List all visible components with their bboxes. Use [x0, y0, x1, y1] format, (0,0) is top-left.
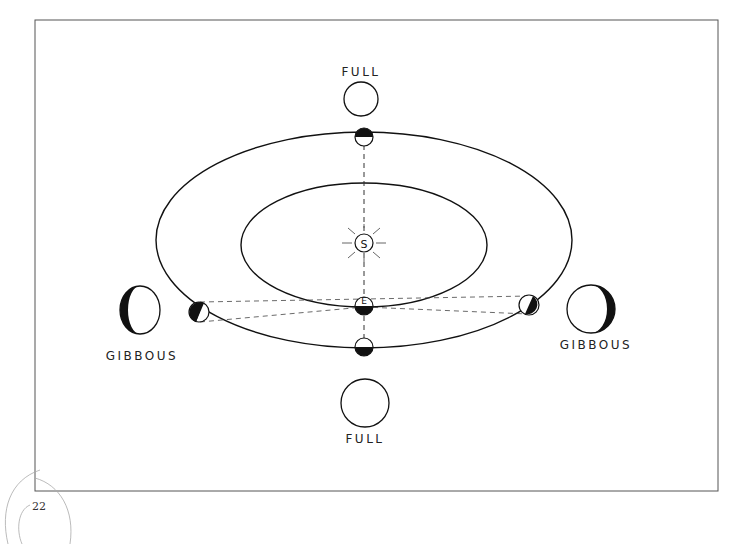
gibbous-moon-right-icon — [567, 285, 615, 333]
label-full-top: FULL — [341, 65, 380, 79]
full-moon-bottom-icon — [341, 379, 389, 427]
label-gibbous-right: GIBBOUS — [560, 338, 632, 352]
moon-orbit-bottom-icon — [355, 338, 373, 356]
page-corner-mark-inner2 — [19, 505, 30, 544]
moon-orbit-left-icon — [189, 302, 209, 322]
moon-orbit-top-icon — [355, 128, 373, 146]
moon-phase-diagram: 22 S E — [0, 0, 735, 544]
moon-orbit-right-icon — [519, 295, 539, 315]
sightline-left-lower — [200, 307, 364, 322]
page-number: 22 — [32, 500, 46, 513]
full-moon-top-icon — [344, 82, 378, 116]
sightline-right-lower — [364, 307, 528, 314]
earth-icon: E — [355, 296, 373, 315]
label-full-bottom: FULL — [345, 432, 384, 446]
sun-label: S — [361, 238, 368, 251]
label-gibbous-left: GIBBOUS — [106, 349, 178, 363]
earth-label: E — [361, 296, 367, 306]
gibbous-moon-left-icon — [120, 286, 160, 334]
